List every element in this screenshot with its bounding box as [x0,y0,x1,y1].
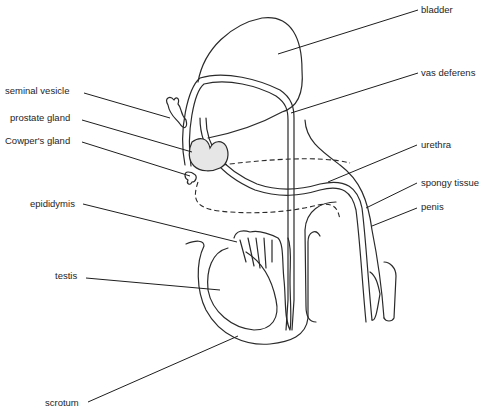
label-prostate-gland: prostate gland [10,112,70,123]
leader-spongy-tissue [366,183,417,208]
epididymis-coils [240,238,272,268]
leader-bladder [278,10,418,54]
label-testis: testis [55,270,77,281]
leader-penis [372,208,417,226]
urethra-tube-inner [206,118,372,320]
dashed-outline-upper [222,159,350,165]
penis-shape [305,202,336,322]
leader-urethra [328,145,417,182]
epididymis-shape [234,231,291,330]
label-penis: penis [421,201,444,212]
dashed-outline-lower [195,182,340,220]
label-scrotum: scrotum [45,397,79,408]
leader-scrotum [88,336,238,402]
label-epididymis: epididymis [30,198,75,209]
leader-epididymis [83,204,237,242]
testis-shape [208,248,277,330]
label-urethra: urethra [421,139,451,150]
label-vas-deferens: vas deferens [421,67,475,78]
prostate-gland-shape [189,139,228,171]
scrotum-shape [186,232,320,345]
label-cowpers-gland: Cowper's gland [5,135,70,146]
label-spongy-tissue: spongy tissue [421,177,479,188]
body-outline [305,120,384,318]
label-seminal-vesicle: seminal vesicle [5,85,69,96]
cowpers-gland-shape [185,172,196,184]
leader-vas-deferens [291,73,418,113]
bladder-shape [198,18,302,138]
vas-deferens-tube-inner [189,82,288,330]
leader-testis [86,278,220,290]
leader-seminal-vesicle [84,93,170,118]
label-bladder: bladder [421,4,453,15]
